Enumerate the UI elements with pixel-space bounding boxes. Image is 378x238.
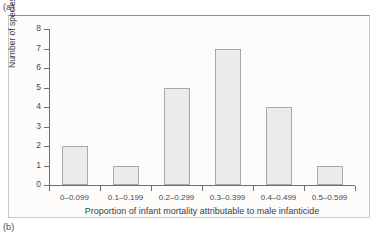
y-axis-tick: 3: [44, 127, 49, 128]
bar: [164, 88, 190, 186]
x-axis-tick: [202, 186, 203, 191]
y-axis-line: [49, 29, 50, 186]
bar: [215, 49, 241, 186]
x-axis-tick-label: 0.2–0.299: [159, 193, 195, 202]
y-axis-tick-label: 8: [36, 23, 41, 33]
y-axis-tick-label: 3: [36, 121, 41, 131]
x-axis-title: Proportion of infant mortality attributa…: [49, 206, 355, 216]
bar: [266, 107, 292, 185]
y-axis-tick: 7: [44, 49, 49, 50]
y-axis-tick-label: 6: [36, 62, 41, 72]
y-axis-tick-label: 5: [36, 82, 41, 92]
x-axis-tick: [355, 186, 356, 191]
figure-container: (a) Number of species 012345678 0–0.0990…: [0, 0, 378, 238]
x-axis-tick: [304, 186, 305, 191]
y-axis-tick: 8: [44, 29, 49, 30]
x-axis-tick-label: 0.3–0.399: [210, 193, 246, 202]
y-axis-tick-label: 4: [36, 101, 41, 111]
y-axis-tick-label: 2: [36, 140, 41, 150]
y-axis-tick: 6: [44, 68, 49, 69]
bar: [113, 166, 139, 186]
x-axis-tick-label: 0–0.099: [60, 193, 89, 202]
y-axis-tick-label: 0: [36, 179, 41, 189]
x-axis-tick: [253, 186, 254, 191]
y-axis-tick-label: 1: [36, 160, 41, 170]
y-axis-tick: 5: [44, 88, 49, 89]
y-axis-tick: 1: [44, 166, 49, 167]
y-axis-tick: 2: [44, 146, 49, 147]
y-axis-tick-label: 7: [36, 43, 41, 53]
x-axis-tick-label: 0.4–0.499: [261, 193, 297, 202]
x-axis-tick: [100, 186, 101, 191]
x-axis-tick-label: 0.5–0.599: [312, 193, 348, 202]
bar: [317, 166, 343, 186]
x-axis-tick: [49, 186, 50, 191]
x-axis-tick: [151, 186, 152, 191]
bar: [62, 146, 88, 185]
y-axis-title: Number of species: [7, 0, 17, 68]
x-axis-tick-label: 0.1–0.199: [108, 193, 144, 202]
y-axis-tick: 4: [44, 107, 49, 108]
panel-label-b: (b): [3, 222, 14, 232]
chart-panel-a: Number of species 012345678 0–0.0990.1–0…: [8, 15, 370, 218]
